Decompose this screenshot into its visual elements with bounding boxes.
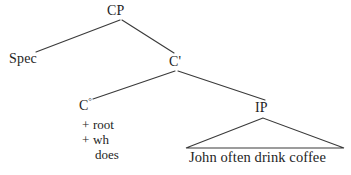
feature-label: wh <box>93 132 109 147</box>
branch-cbar-to-ip <box>178 71 265 100</box>
feature-marker: + <box>82 117 93 132</box>
node-c-head-letter: C <box>79 98 88 113</box>
feature-label: root <box>93 117 114 132</box>
branch-cbar-to-chead <box>93 71 175 99</box>
node-c-head: C° <box>79 99 92 113</box>
feature-marker: + <box>82 132 93 147</box>
syntax-tree-figure: CP Spec C' C° +root +wh does IP John oft… <box>0 0 351 175</box>
degree-symbol-icon: ° <box>88 96 92 106</box>
feature-row: does <box>82 147 119 162</box>
ip-ellipsis-triangle <box>186 118 344 148</box>
feature-row: +wh <box>82 132 119 147</box>
terminal-sentence: John often drink coffee <box>189 150 326 165</box>
branch-cp-to-cbar <box>122 20 174 53</box>
branch-cp-to-spec <box>36 20 120 52</box>
feature-label: does <box>93 147 119 162</box>
feature-list: +root +wh does <box>82 117 119 162</box>
node-ip: IP <box>255 101 268 115</box>
node-cp: CP <box>107 4 125 18</box>
node-c-bar: C' <box>169 55 181 69</box>
feature-row: +root <box>82 117 119 132</box>
node-spec: Spec <box>9 52 37 66</box>
